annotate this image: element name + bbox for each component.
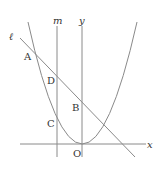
- label-origin: O: [73, 148, 81, 159]
- label-point-c: C: [47, 118, 55, 129]
- diagram: ℓ m y x O A D B C: [0, 0, 163, 171]
- label-line-m: m: [53, 15, 62, 26]
- label-point-a: A: [23, 51, 32, 62]
- line-l: [20, 38, 135, 157]
- label-y-axis: y: [78, 15, 85, 26]
- label-point-b: B: [72, 102, 79, 113]
- label-point-d: D: [47, 75, 55, 86]
- label-x-axis: x: [147, 139, 153, 150]
- label-line-l: ℓ: [9, 31, 13, 42]
